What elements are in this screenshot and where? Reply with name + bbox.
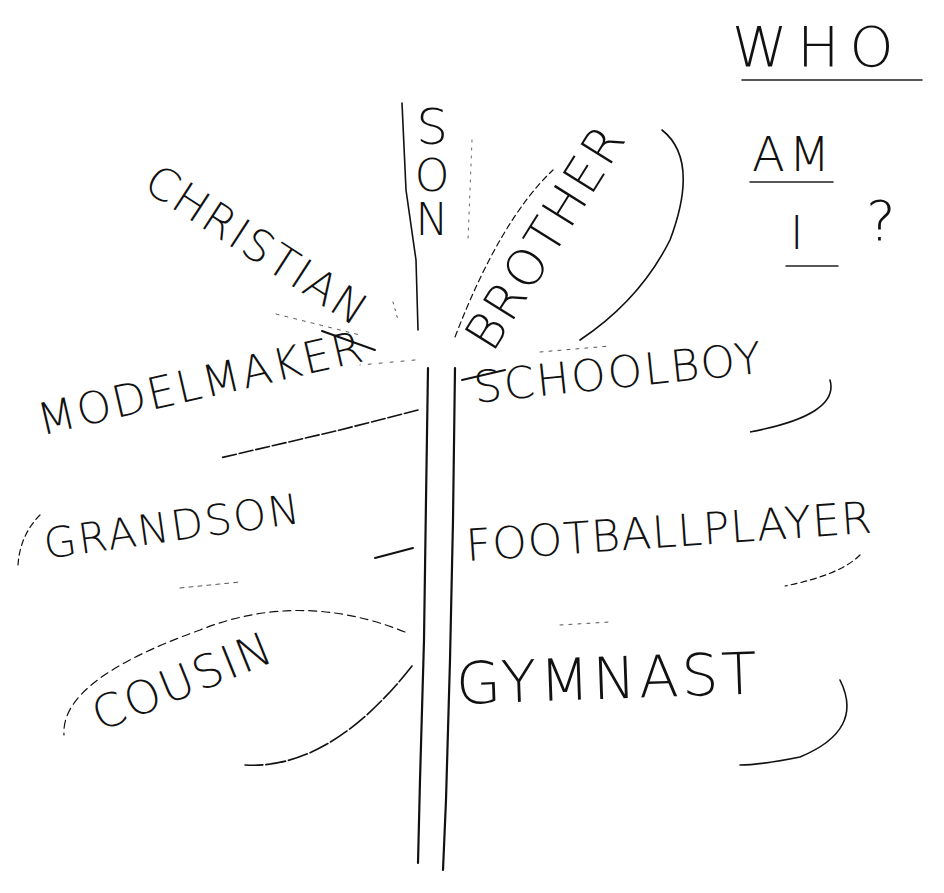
label-son: S O N [412,100,452,242]
label-son-o: O [412,154,452,198]
label-son-n: N [412,198,452,242]
title-question-mark: ? [866,188,906,253]
label-gymnast: GYMNAST [455,639,761,718]
title-who: WHO [732,14,904,79]
title-am: AM [752,126,834,182]
label-son-s: S [412,100,452,154]
title-i: I [790,206,814,260]
tree-trunk [418,368,455,870]
branch-football-player [785,555,860,586]
